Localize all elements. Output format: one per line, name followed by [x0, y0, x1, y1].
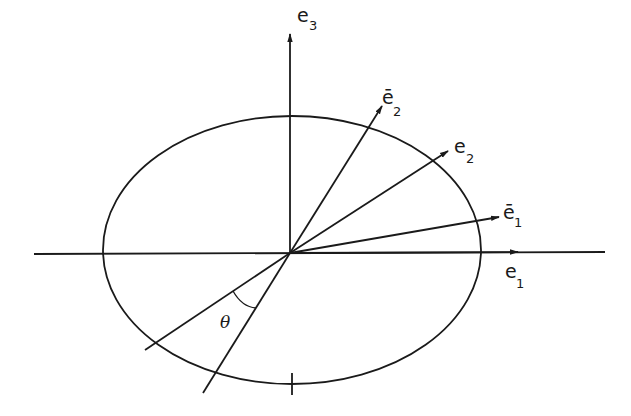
- svg-text:e: e: [297, 4, 309, 26]
- ebar2-extension-line: [203, 253, 290, 393]
- ebar1-arrow: [290, 217, 499, 253]
- e2-arrow: [290, 151, 448, 253]
- label-e2: e 2: [454, 135, 474, 166]
- label-e3: e 3: [297, 4, 317, 33]
- svg-text:3: 3: [309, 18, 317, 33]
- svg-text:ē: ē: [382, 86, 394, 108]
- label-e1: e 1: [505, 260, 524, 291]
- theta-angle-arc: [233, 291, 256, 308]
- svg-text:2: 2: [393, 104, 401, 119]
- basis-rotation-diagram: e 3 ē 2 e 2 ē 1 e 1 θ: [0, 0, 631, 416]
- svg-text:e: e: [505, 260, 517, 282]
- svg-text:2: 2: [466, 151, 474, 166]
- svg-text:1: 1: [514, 215, 522, 230]
- e1-arrow: [290, 252, 518, 253]
- svg-text:1: 1: [516, 276, 524, 291]
- label-ebar2: ē 2: [382, 86, 401, 119]
- label-ebar1: ē 1: [503, 201, 522, 230]
- svg-text:ē: ē: [503, 201, 515, 223]
- svg-text:e: e: [454, 135, 466, 157]
- ebar2-arrow: [290, 106, 382, 253]
- label-theta: θ: [220, 312, 230, 332]
- e2-extension-line: [145, 253, 290, 350]
